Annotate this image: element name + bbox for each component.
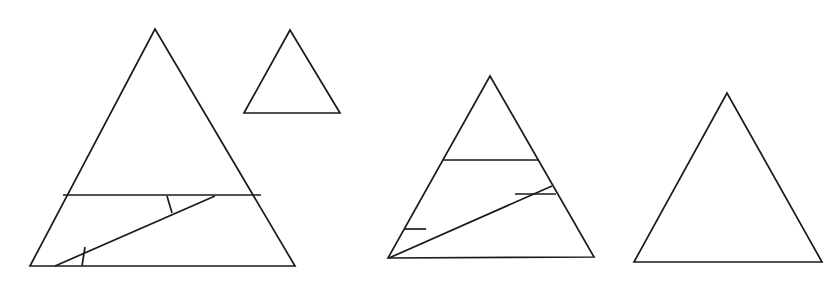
figure-medium-subdivided-triangle (388, 76, 594, 258)
large-triangle-outline (30, 29, 295, 266)
figure-large-subdivided-triangle (30, 29, 295, 266)
large-triangle-long-diagonal (55, 196, 215, 266)
triangle-diagram-svg (0, 0, 831, 284)
medium-triangle-long-diagonal (389, 186, 552, 258)
figure-right-plain-triangle (634, 93, 822, 262)
medium-triangle-outline (388, 76, 594, 258)
large-triangle-short-lower-tick (82, 247, 85, 266)
figure-small-plain-triangle (244, 30, 340, 113)
figure-canvas (0, 0, 831, 284)
small-triangle-outline (244, 30, 340, 113)
right-triangle-outline (634, 93, 822, 262)
large-triangle-short-vertical-tick (167, 196, 172, 213)
